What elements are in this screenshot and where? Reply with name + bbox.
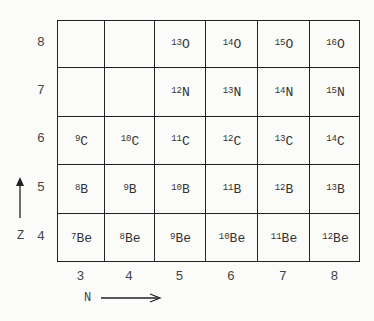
element-symbol: C [286, 134, 294, 149]
element-symbol: O [337, 37, 345, 52]
nuclide-cell: 14C [310, 117, 361, 165]
z-tick-label: 8 [31, 35, 51, 50]
mass-number: 15 [275, 38, 286, 48]
element-symbol: B [129, 182, 137, 197]
mass-number: 10 [219, 232, 230, 242]
nuclide-cell: 14O [206, 21, 258, 68]
nuclide-cell: 7Be [58, 214, 105, 263]
mass-number: 9 [170, 232, 175, 242]
mass-number: 15 [326, 86, 337, 96]
mass-number: 13 [275, 134, 286, 144]
nuclide-cell: 16O [310, 21, 361, 68]
mass-number: 11 [223, 183, 234, 193]
nuclide-grid: 13O14O15O16O12N13N14N15N9C10C11C12C13C14… [57, 20, 360, 262]
z-tick-label: 4 [31, 229, 51, 244]
mass-number: 12 [171, 86, 182, 96]
nuclide-cell: 13C [258, 117, 310, 165]
element-symbol: O [286, 37, 294, 52]
element-symbol: B [286, 182, 294, 197]
mass-number: 14 [275, 86, 286, 96]
nuclide-cell: 9Be [155, 214, 206, 263]
nuclide-cell: 12B [258, 165, 310, 214]
mass-number: 16 [326, 38, 337, 48]
nuclide-cell: 10Be [206, 214, 258, 263]
nuclide-cell: 13B [310, 165, 361, 214]
n-tick-label: 3 [71, 269, 91, 284]
nuclide-cell: 12C [206, 117, 258, 165]
element-symbol: C [337, 134, 345, 149]
nuclide-cell: 13O [155, 21, 206, 68]
element-symbol: C [132, 134, 140, 149]
z-tick-label: 5 [31, 180, 51, 195]
element-symbol: O [182, 37, 190, 52]
mass-number: 13 [171, 38, 182, 48]
nuclide-cell: 8Be [105, 214, 155, 263]
element-symbol: C [182, 134, 190, 149]
n-axis-arrow-icon [100, 292, 162, 304]
mass-number: 7 [71, 232, 76, 242]
element-symbol: N [286, 85, 294, 100]
mass-number: 12 [223, 134, 234, 144]
nuclide-cell: 11Be [258, 214, 310, 263]
mass-number: 14 [326, 134, 337, 144]
empty-cell [105, 68, 155, 117]
nuclide-cell: 8B [58, 165, 105, 214]
nuclide-cell: 14N [258, 68, 310, 117]
mass-number: 12 [275, 183, 286, 193]
element-symbol: B [182, 182, 190, 197]
element-symbol: N [337, 85, 345, 100]
element-symbol: N [182, 85, 190, 100]
element-symbol: C [80, 134, 88, 149]
mass-number: 8 [119, 232, 124, 242]
element-symbol: N [234, 85, 242, 100]
mass-number: 11 [171, 134, 182, 144]
mass-number: 13 [326, 183, 337, 193]
nuclide-cell: 9B [105, 165, 155, 214]
nuclide-cell: 12Be [310, 214, 361, 263]
n-tick-label: 5 [170, 269, 190, 284]
n-tick-label: 4 [119, 269, 139, 284]
nuclide-cell: 10C [105, 117, 155, 165]
nuclide-cell: 15N [310, 68, 361, 117]
element-symbol: B [234, 182, 242, 197]
z-tick-label: 7 [31, 83, 51, 98]
empty-cell [105, 21, 155, 68]
mass-number: 10 [171, 183, 182, 193]
empty-cell [58, 21, 105, 68]
mass-number: 9 [75, 134, 80, 144]
element-symbol: B [80, 182, 88, 197]
nuclide-cell: 13N [206, 68, 258, 117]
mass-number: 9 [123, 183, 128, 193]
nuclide-cell: 11B [206, 165, 258, 214]
n-axis-title: N [84, 291, 91, 305]
nuclide-cell: 11C [155, 117, 206, 165]
element-symbol: Be [333, 231, 349, 246]
mass-number: 8 [75, 183, 80, 193]
mass-number: 13 [223, 86, 234, 96]
element-symbol: O [234, 37, 242, 52]
mass-number: 10 [121, 134, 132, 144]
nuclide-cell: 10B [155, 165, 206, 214]
z-tick-label: 6 [31, 131, 51, 146]
element-symbol: C [234, 134, 242, 149]
z-axis-title: Z [17, 229, 24, 243]
n-tick-label: 7 [273, 269, 293, 284]
n-tick-label: 8 [325, 269, 345, 284]
element-symbol: Be [175, 231, 191, 246]
element-symbol: Be [230, 231, 246, 246]
mass-number: 12 [322, 232, 333, 242]
nuclide-cell: 12N [155, 68, 206, 117]
nuclide-cell: 9C [58, 117, 105, 165]
nuclide-cell: 15O [258, 21, 310, 68]
element-symbol: Be [125, 231, 141, 246]
element-symbol: Be [282, 231, 298, 246]
mass-number: 11 [271, 232, 282, 242]
z-axis-arrow-icon [14, 176, 26, 220]
mass-number: 14 [223, 38, 234, 48]
empty-cell [58, 68, 105, 117]
element-symbol: Be [76, 231, 92, 246]
element-symbol: B [337, 182, 345, 197]
n-tick-label: 6 [221, 269, 241, 284]
